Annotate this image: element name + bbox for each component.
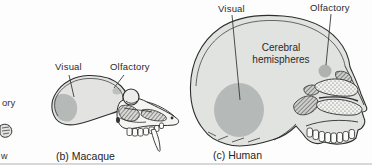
macaque-olfactory-label: Olfactory	[110, 61, 150, 72]
human-caption: (c) Human	[213, 149, 262, 161]
cropped-skull-fragment-illustration	[0, 120, 16, 140]
figure-bottom-edge	[0, 163, 372, 165]
cropped-label-fragment: ory	[2, 97, 15, 108]
human-skull-illustration	[188, 14, 372, 162]
cropped-caption-fragment: w	[1, 151, 8, 161]
human-olfactory-region	[319, 65, 332, 78]
macaque-canine	[151, 129, 160, 151]
macaque-orbit	[123, 89, 139, 105]
human-visual-label: Visual	[218, 3, 245, 14]
human-cerebral-hemispheres-label: Cerebral hemispheres	[243, 42, 319, 65]
figure-canvas: ory w Visual Olfactory	[0, 0, 372, 165]
macaque-caption: (b) Macaque	[56, 150, 115, 162]
macaque-visual-label: Visual	[55, 61, 82, 72]
macaque-skull-illustration	[48, 74, 183, 156]
human-olfactory-label: Olfactory	[310, 2, 350, 13]
